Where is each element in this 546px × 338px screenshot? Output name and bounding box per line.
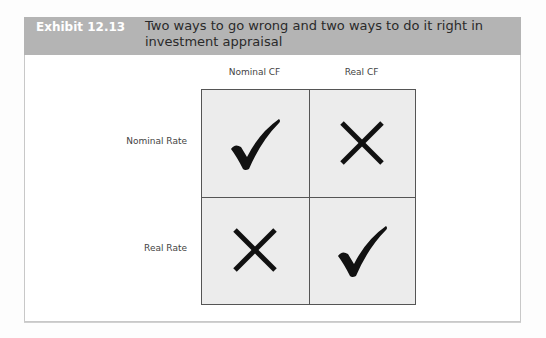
column-header-real-cf: Real CF bbox=[308, 67, 415, 77]
row-header-nominal-rate: Nominal Rate bbox=[87, 136, 187, 146]
cell-real-rate-real-cf bbox=[309, 197, 415, 303]
exhibit-label: Exhibit 12.13 bbox=[36, 20, 125, 34]
cross-icon bbox=[225, 220, 285, 280]
cell-real-rate-nominal-cf bbox=[202, 197, 308, 303]
exhibit-header: Exhibit 12.13 Two ways to go wrong and t… bbox=[24, 17, 521, 55]
cell-nominal-rate-nominal-cf bbox=[202, 90, 308, 196]
check-icon bbox=[332, 220, 392, 280]
check-icon bbox=[225, 113, 285, 173]
exhibit-title: Two ways to go wrong and two ways to do … bbox=[145, 18, 505, 50]
decision-matrix bbox=[201, 89, 416, 305]
column-header-nominal-cf: Nominal CF bbox=[201, 67, 308, 77]
cross-icon bbox=[332, 113, 392, 173]
row-header-real-rate: Real Rate bbox=[87, 243, 187, 253]
cell-nominal-rate-real-cf bbox=[309, 90, 415, 196]
